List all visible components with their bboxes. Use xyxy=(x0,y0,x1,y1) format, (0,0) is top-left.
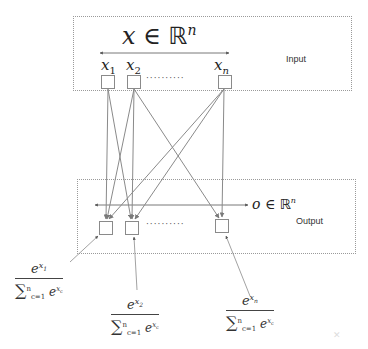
formula-1-pointer xyxy=(70,236,98,262)
formula-2-pointer xyxy=(134,237,137,290)
formula-n-pointer xyxy=(226,236,250,296)
fraction-bar xyxy=(111,314,159,315)
fraction-bar xyxy=(226,310,274,311)
softmax-formula-2: ex2 ∑nc=1 exc xyxy=(111,294,159,342)
watermark-icon: ✕ xyxy=(333,330,341,338)
fraction-bar xyxy=(15,278,63,279)
softmax-formula-n: exn ∑nc=1 exc xyxy=(226,290,274,338)
softmax-formula-1: ex1 ∑nc=1 exc xyxy=(15,258,63,306)
